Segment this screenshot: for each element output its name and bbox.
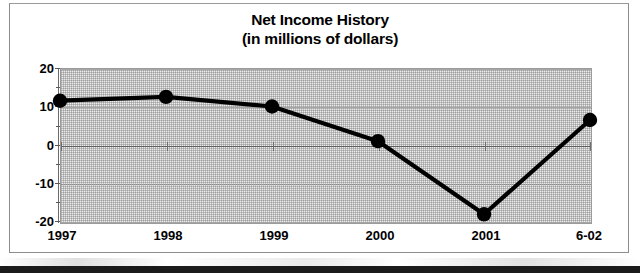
- x-axis-label-1998: 1998: [154, 228, 183, 243]
- y-tick-0: [55, 145, 60, 146]
- y-axis-label-neg20: -20: [14, 215, 54, 228]
- gridline-neg20: [61, 222, 591, 223]
- y-tick-minor-5: [56, 126, 60, 127]
- y-tick-10: [55, 106, 60, 107]
- y-axis-label-0: 0: [14, 139, 54, 152]
- x-axis-label-1999: 1999: [260, 228, 289, 243]
- gridline-neg10: [61, 184, 591, 185]
- gridline-zero: [61, 146, 591, 147]
- y-tick-minor-neg15: [56, 202, 60, 203]
- y-axis-label-10: 10: [14, 100, 54, 113]
- chart-page: Net Income History (in millions of dolla…: [0, 0, 640, 273]
- x-axis-labels: 1997 1998 1999 2000 2001 6-02: [0, 228, 640, 248]
- zero-tick-2001: [485, 142, 486, 151]
- y-tick-neg10: [55, 183, 60, 184]
- zero-tick-1997: [61, 142, 62, 151]
- zero-tick-1998: [167, 142, 168, 151]
- y-tick-minor-neg5: [56, 164, 60, 165]
- y-axis-label-20: 20: [14, 62, 54, 75]
- x-axis-label-2001: 2001: [472, 228, 501, 243]
- scan-smudge: [0, 258, 640, 266]
- x-axis-label-1997: 1997: [48, 228, 77, 243]
- y-tick-20: [55, 68, 60, 69]
- y-tick-neg20: [55, 221, 60, 222]
- gridline-20: [61, 69, 591, 70]
- plot-area: [60, 68, 592, 224]
- zero-tick-1999: [273, 142, 274, 151]
- scan-edge-bar: [0, 266, 640, 273]
- y-axis-label-neg10: -10: [14, 177, 54, 190]
- x-axis-label-2000: 2000: [366, 228, 395, 243]
- zero-tick-6-02: [590, 142, 591, 151]
- gridline-10: [61, 107, 591, 108]
- x-axis-label-6-02: 6-02: [576, 228, 602, 243]
- y-tick-minor-15: [56, 87, 60, 88]
- y-axis-line: [58, 68, 59, 223]
- zero-tick-2000: [379, 142, 380, 151]
- chart-canvas: 20 10 0 -10 -20 1997 1998 1999 2000 2001…: [0, 0, 640, 273]
